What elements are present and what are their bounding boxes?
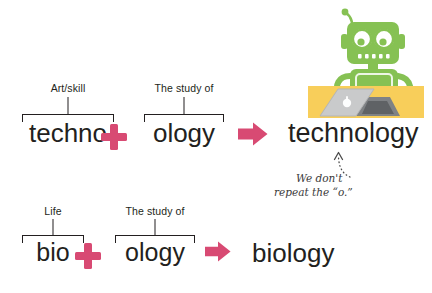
annotation-line-2: repeat the “o.”: [274, 185, 353, 199]
plus-operator-2: [75, 243, 101, 269]
right-arrow-icon-1: [238, 122, 268, 146]
word-part-ology-2: The study of ology: [115, 205, 195, 263]
part-word-ology: ology: [153, 118, 215, 149]
infographic-canvas: Art/skill techno The study of ology tech…: [0, 0, 432, 293]
part-label-the-study-of: The study of: [126, 205, 185, 217]
result-word-biology: biology: [252, 238, 334, 269]
part-word-ology: ology: [125, 238, 185, 267]
robot-at-laptop-illustration: [302, 2, 430, 124]
dotted-pointer-arrow-icon: [326, 147, 364, 183]
label-stem: [155, 219, 156, 235]
label-stem: [53, 219, 54, 235]
part-word-techno: techno: [29, 118, 107, 149]
part-word-bio: bio: [36, 238, 69, 267]
label-stem: [184, 97, 185, 114]
label-stem: [68, 97, 69, 114]
part-label-the-study-of: The study of: [155, 82, 214, 94]
word-part-ology-1: The study of ology: [144, 82, 224, 144]
part-label-art-skill: Art/skill: [51, 82, 86, 94]
right-arrow-icon-2: [205, 241, 231, 262]
plus-operator-1: [101, 124, 127, 150]
part-label-life: Life: [44, 205, 61, 217]
